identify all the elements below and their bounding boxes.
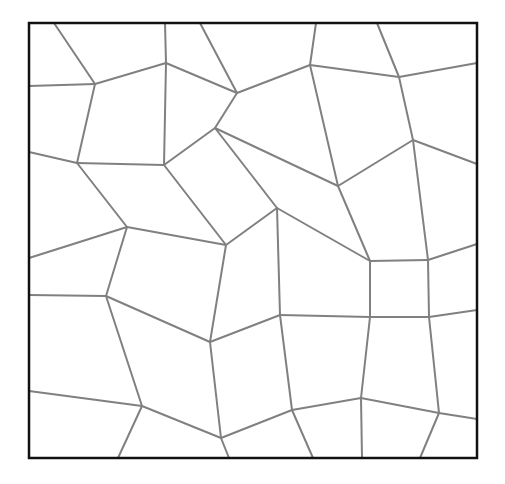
cell-edge xyxy=(420,413,439,458)
cell-edge xyxy=(280,315,370,317)
cell-edge xyxy=(164,128,215,165)
cell-edge xyxy=(399,77,413,140)
diagram-frame xyxy=(29,23,477,458)
cell-edge xyxy=(226,208,277,245)
cell-edge xyxy=(142,406,221,438)
cell-edge xyxy=(29,84,95,86)
cell-edge xyxy=(361,398,362,458)
cell-edge xyxy=(221,438,229,458)
cell-edge xyxy=(210,315,280,342)
cell-edge xyxy=(413,140,428,260)
cell-edge xyxy=(164,165,226,245)
cell-edge xyxy=(338,186,370,261)
cell-edge xyxy=(292,410,313,458)
cell-edge xyxy=(106,227,127,296)
cell-edge xyxy=(200,23,237,93)
cell-edge xyxy=(439,413,477,419)
cell-edge xyxy=(361,398,439,413)
cell-edge xyxy=(106,296,142,406)
cell-edge xyxy=(277,208,280,315)
cell-edge xyxy=(127,227,226,245)
cell-edge xyxy=(164,63,166,165)
cell-edge xyxy=(292,398,361,410)
cell-edge xyxy=(165,23,166,63)
cell-edge xyxy=(29,152,77,163)
cell-edge xyxy=(429,317,439,413)
cell-edge xyxy=(210,342,221,438)
cell-edge xyxy=(413,140,477,164)
cell-edge xyxy=(106,296,210,342)
cell-edge xyxy=(166,63,237,93)
cell-edge xyxy=(377,23,399,77)
cell-edge xyxy=(280,315,292,410)
voronoi-diagram xyxy=(0,0,505,484)
cell-edge xyxy=(95,63,166,84)
cell-edge xyxy=(215,128,277,208)
cell-edge xyxy=(370,260,428,261)
cell-edge xyxy=(118,406,142,458)
cell-edge xyxy=(237,65,310,93)
cell-edge xyxy=(429,310,477,317)
cell-edge xyxy=(54,23,95,84)
cell-edge xyxy=(310,65,338,186)
cell-edge xyxy=(215,93,237,128)
cell-edge xyxy=(210,245,226,342)
cell-edge xyxy=(310,65,399,77)
cell-edge xyxy=(399,63,477,77)
cell-edge xyxy=(428,244,477,260)
cell-edge xyxy=(77,163,127,227)
cell-edge xyxy=(77,84,95,163)
cell-edges xyxy=(29,23,477,458)
cell-edge xyxy=(338,140,413,186)
cell-edge xyxy=(221,410,292,438)
cell-edge xyxy=(77,163,164,165)
cell-edge xyxy=(29,227,127,258)
cell-edge xyxy=(428,260,429,317)
cell-edge xyxy=(29,295,106,296)
cell-edge xyxy=(310,23,316,65)
cell-edge xyxy=(277,208,370,261)
cell-edge xyxy=(29,391,142,406)
cell-edge xyxy=(215,128,338,186)
cell-edge xyxy=(361,317,370,398)
